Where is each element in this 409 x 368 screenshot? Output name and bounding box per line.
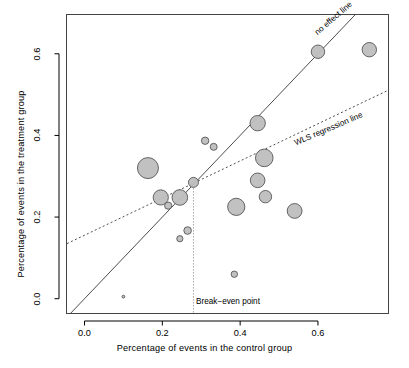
data-point-13 bbox=[250, 173, 265, 188]
reference-lines-group bbox=[67, 15, 388, 313]
data-point-1 bbox=[137, 158, 158, 179]
data-point-11 bbox=[228, 198, 245, 215]
data-point-6 bbox=[184, 227, 192, 235]
data-point-16 bbox=[287, 204, 302, 219]
x-axis-title: Percentage of events in the control grou… bbox=[0, 343, 409, 353]
data-points-group bbox=[122, 42, 377, 298]
x-tick-label-1: 0.2 bbox=[147, 328, 177, 338]
data-point-10 bbox=[231, 271, 237, 277]
data-point-4 bbox=[172, 190, 188, 206]
y-tick-label-2: 0.4 bbox=[30, 128, 60, 142]
x-tick-label-2: 0.4 bbox=[225, 328, 255, 338]
data-point-8 bbox=[201, 137, 208, 144]
data-point-18 bbox=[362, 42, 376, 56]
data-point-12 bbox=[250, 115, 265, 130]
x-tick-label-0: 0.0 bbox=[70, 328, 100, 338]
y-tick-label-1: 0.2 bbox=[30, 210, 60, 224]
data-point-9 bbox=[210, 143, 217, 150]
data-point-15 bbox=[259, 190, 271, 202]
y-axis-title: Percentage of events in the treatment gr… bbox=[14, 0, 28, 368]
data-point-14 bbox=[255, 149, 273, 167]
data-point-3 bbox=[165, 202, 172, 209]
y-tick-label-0: 0.0 bbox=[30, 292, 60, 306]
x-tick-label-3: 0.6 bbox=[303, 328, 333, 338]
data-point-0 bbox=[122, 295, 125, 298]
chart-canvas bbox=[0, 0, 409, 368]
data-point-7 bbox=[188, 177, 198, 187]
break-even-point-label: Break−even point bbox=[196, 297, 260, 306]
data-point-17 bbox=[311, 45, 324, 58]
plot-panel-border bbox=[67, 15, 389, 314]
y-tick-label-3: 0.6 bbox=[30, 47, 60, 61]
data-point-5 bbox=[177, 236, 183, 242]
reference-line-1 bbox=[67, 90, 388, 243]
scatter-plot-figure: Percentage of events in the control grou… bbox=[0, 0, 409, 368]
reference-line-0 bbox=[71, 15, 355, 313]
